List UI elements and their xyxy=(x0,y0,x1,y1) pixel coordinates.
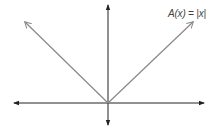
graph-canvas xyxy=(0,0,214,133)
abs-function-curve xyxy=(25,22,193,103)
function-label: A(x) = |x| xyxy=(168,8,206,19)
